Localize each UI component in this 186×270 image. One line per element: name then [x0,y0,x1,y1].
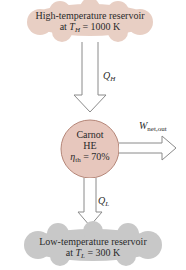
cold-reservoir-label: Low-temperature reservoir at TL = 300 K [30,236,156,258]
heat-in-label: QH [103,70,115,81]
heat-in-arrow [74,42,106,112]
engine-efficiency: ηth = 70% [62,151,118,162]
engine-type: HE [62,140,118,151]
work-out-label: Wnet,out [139,120,167,131]
engine-label: Carnot HE ηth = 70% [62,129,118,162]
hot-reservoir-label: High-temperature reservoir at TH = 1000 … [28,10,152,32]
hot-reservoir-title: High-temperature reservoir [28,10,152,21]
work-out-arrow [119,136,176,160]
heat-out-label: QL [98,195,109,206]
cold-reservoir-temperature: at TL = 300 K [30,247,156,258]
hot-reservoir-temperature: at TH = 1000 K [28,21,152,32]
engine-name: Carnot [62,129,118,140]
cold-reservoir-title: Low-temperature reservoir [30,236,156,247]
